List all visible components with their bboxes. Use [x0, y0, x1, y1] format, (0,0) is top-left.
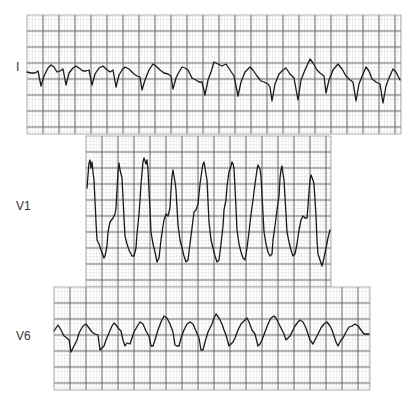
ecg-strip-v6 [54, 287, 370, 390]
lead-label-v6: V6 [16, 330, 31, 342]
lead-label-v1: V1 [16, 200, 31, 212]
ecg-figure [0, 0, 414, 409]
ecg-strip-i [27, 15, 401, 134]
ecg-strip-v1 [86, 136, 331, 287]
lead-label-i: I [16, 61, 19, 73]
minor-grid [54, 287, 370, 390]
ecg-strips [27, 15, 401, 390]
